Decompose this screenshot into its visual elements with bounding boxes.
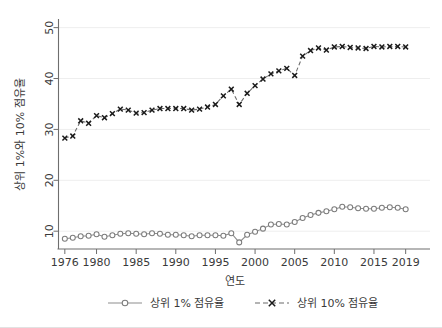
data-point-marker: [253, 83, 258, 88]
x-tick-label: 2015: [360, 256, 388, 269]
y-axis-title: 상위 1%와 10% 점유율: [14, 78, 27, 190]
data-point-marker: [379, 205, 384, 210]
x-tick-label: 2010: [320, 256, 348, 269]
data-point-marker: [261, 77, 266, 82]
data-point-marker: [142, 232, 147, 237]
x-tick-label: 2005: [281, 256, 309, 269]
data-point-marker: [165, 232, 170, 237]
data-point-marker: [229, 87, 234, 92]
data-point-marker: [276, 68, 281, 73]
x-tick-label: 1985: [122, 256, 150, 269]
x-tick-label: 1976: [51, 256, 79, 269]
data-point-marker: [332, 207, 337, 212]
data-point-marker: [78, 234, 83, 239]
data-point-marker: [237, 240, 242, 245]
data-point-marker: [245, 91, 250, 96]
y-tick-label: 30: [43, 122, 56, 136]
data-point-marker: [173, 232, 178, 237]
x-tick-label: 2019: [392, 256, 420, 269]
data-point-marker: [356, 206, 361, 211]
data-point-marker: [229, 231, 234, 236]
x-axis-title: 연도: [225, 275, 245, 288]
data-point-marker: [86, 233, 91, 238]
data-point-marker: [94, 232, 99, 237]
data-point-marker: [221, 93, 226, 98]
data-point-marker: [110, 233, 115, 238]
y-tick-label: 20: [43, 173, 56, 187]
series-line-1: [65, 207, 406, 243]
data-point-marker: [237, 102, 242, 107]
data-point-marker: [102, 115, 107, 120]
data-point-marker: [364, 206, 369, 211]
line-chart: 1020304050상위 1%와 10% 점유율1976198019851990…: [0, 0, 442, 328]
data-point-marker: [118, 231, 123, 236]
chart-figure: 1020304050상위 1%와 10% 점유율1976198019851990…: [0, 0, 442, 328]
data-point-marker: [300, 215, 305, 220]
data-point-marker: [150, 231, 155, 236]
x-tick-label: 1990: [162, 256, 190, 269]
data-point-marker: [70, 134, 75, 139]
data-point-marker: [205, 233, 210, 238]
data-point-marker: [245, 232, 250, 237]
y-tick-label: 10: [43, 224, 56, 238]
data-point-marker: [126, 231, 131, 236]
data-point-marker: [395, 205, 400, 210]
data-point-marker: [181, 233, 186, 238]
x-tick-label: 1980: [83, 256, 111, 269]
data-point-marker: [221, 233, 226, 238]
data-point-marker: [348, 205, 353, 210]
data-point-marker: [70, 235, 75, 240]
legend-circle-icon: [122, 300, 128, 306]
data-point-marker: [316, 210, 321, 215]
data-point-marker: [197, 233, 202, 238]
data-point-marker: [284, 222, 289, 227]
data-point-marker: [269, 72, 274, 77]
data-point-marker: [300, 54, 305, 59]
data-point-marker: [62, 236, 67, 241]
data-point-marker: [86, 121, 91, 126]
data-point-marker: [292, 220, 297, 225]
data-point-marker: [157, 231, 162, 236]
y-tick-label: 40: [43, 72, 56, 86]
data-point-marker: [134, 231, 139, 236]
legend-label-2: 상위 10% 점유율: [297, 297, 378, 310]
data-point-marker: [260, 226, 265, 231]
data-point-marker: [324, 209, 329, 214]
data-point-marker: [253, 229, 258, 234]
x-tick-label: 2000: [241, 256, 269, 269]
series-line-2: [65, 46, 406, 138]
data-point-marker: [268, 222, 273, 227]
data-point-marker: [276, 222, 281, 227]
x-tick-label: 1995: [201, 256, 229, 269]
y-tick-label: 50: [43, 21, 56, 35]
data-point-marker: [387, 205, 392, 210]
data-point-marker: [292, 73, 297, 78]
data-point-marker: [403, 207, 408, 212]
data-point-marker: [340, 204, 345, 209]
legend-label-1: 상위 1% 점유율: [150, 297, 224, 310]
data-point-marker: [308, 212, 313, 217]
data-point-marker: [102, 234, 107, 239]
data-point-marker: [371, 206, 376, 211]
data-point-marker: [213, 233, 218, 238]
data-point-marker: [110, 111, 115, 116]
data-point-marker: [189, 234, 194, 239]
data-point-marker: [126, 108, 131, 113]
